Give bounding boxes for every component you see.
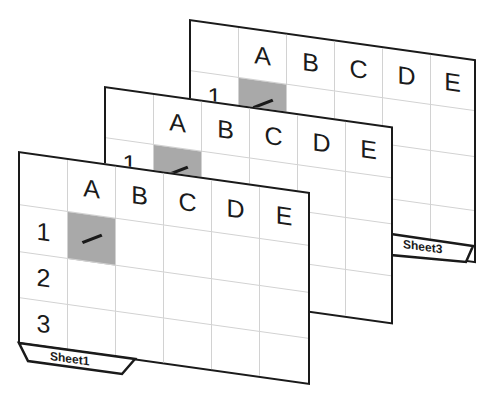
sheet1-tab-shape [0, 0, 488, 394]
